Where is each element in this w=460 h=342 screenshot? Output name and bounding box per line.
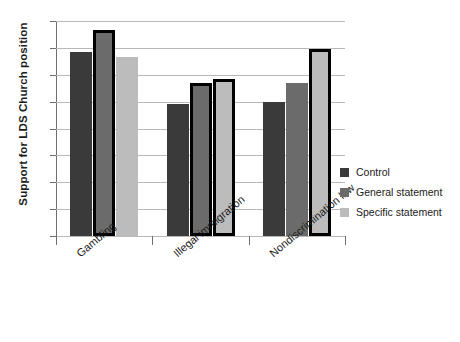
bar bbox=[93, 30, 115, 236]
legend-swatch bbox=[340, 168, 349, 177]
bar bbox=[190, 83, 212, 236]
bar bbox=[116, 57, 138, 236]
y-tick-mark bbox=[50, 21, 56, 22]
y-tick-mark bbox=[50, 155, 56, 156]
y-tick-mark bbox=[50, 182, 56, 183]
x-axis-group-tick bbox=[56, 236, 57, 245]
x-axis-group-tick bbox=[249, 236, 250, 245]
x-axis-group-tick bbox=[345, 236, 346, 245]
y-tick-mark bbox=[50, 102, 56, 103]
y-tick-mark bbox=[50, 75, 56, 76]
bar bbox=[286, 83, 308, 236]
legend-swatch bbox=[340, 208, 349, 217]
bar bbox=[167, 104, 189, 236]
bar bbox=[263, 102, 285, 236]
y-tick-mark bbox=[50, 129, 56, 130]
legend-label: General statement bbox=[356, 186, 442, 198]
bar bbox=[70, 52, 92, 236]
legend: ControlGeneral statementSpecific stateme… bbox=[340, 162, 458, 222]
y-tick-mark bbox=[50, 48, 56, 49]
x-axis-group-tick bbox=[152, 236, 153, 245]
legend-swatch bbox=[340, 188, 349, 197]
y-axis-title: Support for LDS Church position bbox=[17, 14, 29, 214]
legend-item: Specific statement bbox=[340, 202, 458, 222]
legend-label: Specific statement bbox=[356, 206, 442, 218]
gridline bbox=[56, 21, 345, 22]
legend-item: Control bbox=[340, 162, 458, 182]
y-tick-mark bbox=[50, 209, 56, 210]
bar-chart: Support for LDS Church position 01020304… bbox=[0, 0, 460, 342]
legend-item: General statement bbox=[340, 182, 458, 202]
legend-label: Control bbox=[356, 166, 390, 178]
